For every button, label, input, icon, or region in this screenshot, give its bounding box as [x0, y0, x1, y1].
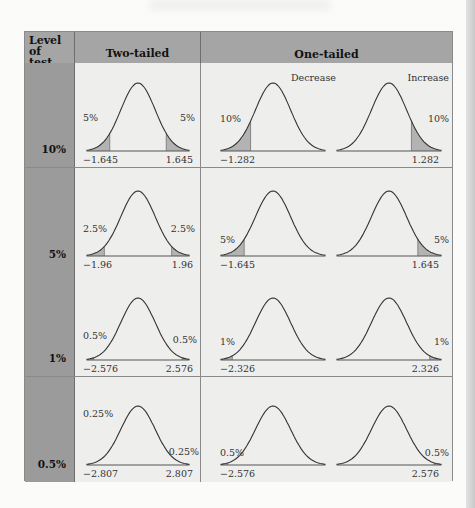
two-tailed-cell: 2.5%2.5%−1.961.96 — [75, 168, 201, 272]
level-cell: 1% — [25, 272, 75, 376]
right-tail-pct: 0.25% — [169, 446, 199, 457]
left-tail-pct: 0.5% — [220, 447, 244, 458]
header-level-of-test: Level of test — [25, 32, 75, 63]
two-tailed-curve: 0.25%0.25%−2.8072.807 — [75, 377, 201, 481]
level-cell: 10% — [25, 63, 75, 167]
neg-critical-value: −1.282 — [220, 154, 255, 165]
two-tailed-curve: 5%5%−1.6451.645 — [75, 63, 201, 167]
level-cell: 0.5% — [25, 377, 75, 482]
pos-critical-value: 2.326 — [412, 363, 439, 374]
one-tailed-curves: 0.5%0.5%−2.5762.576 — [201, 377, 452, 481]
one-tailed-cell: DecreaseIncrease10%10%−1.2821.282 — [201, 63, 452, 167]
one-tailed-curves: DecreaseIncrease10%10%−1.2821.282 — [201, 63, 452, 167]
level-cell: 5% — [25, 168, 75, 272]
pos-critical-value: 1.96 — [172, 259, 193, 270]
right-tail-pct: 0.5% — [173, 334, 197, 345]
one-tailed-cell: 5%5%−1.6451.645 — [201, 168, 452, 272]
two-tailed-curve: 0.5%0.5%−2.5762.576 — [75, 272, 201, 376]
pos-critical-value: 1.282 — [412, 154, 439, 165]
one-tailed-cell: 0.5%0.5%−2.5762.576 — [201, 377, 452, 482]
level-label: 0.5% — [38, 458, 66, 470]
two-tailed-cell: 0.5%0.5%−2.5762.576 — [75, 272, 201, 376]
neg-critical-value: −2.576 — [83, 363, 118, 374]
critical-values-table: Level of test Two-tailed One-tailed 10%5… — [24, 31, 453, 481]
left-tail-pct: 5% — [220, 234, 235, 245]
table-row: 5%2.5%2.5%−1.961.965%5%−1.6451.645 — [25, 168, 452, 273]
neg-critical-value: −1.96 — [83, 259, 112, 270]
bleed-through-text — [150, 0, 330, 10]
left-tail-pct: 5% — [83, 112, 98, 123]
neg-critical-value: −1.645 — [83, 154, 118, 165]
neg-critical-value: −1.645 — [220, 259, 255, 270]
level-label: 1% — [49, 352, 66, 364]
neg-critical-value: −2.807 — [83, 468, 118, 479]
one-tailed-curves: 1%1%−2.3262.326 — [201, 272, 452, 376]
page-edge — [466, 0, 475, 508]
pos-critical-value: 2.576 — [412, 468, 439, 479]
one-tailed-cell: 1%1%−2.3262.326 — [201, 272, 452, 376]
table-row: 10%5%5%−1.6451.645DecreaseIncrease10%10%… — [25, 63, 452, 168]
pos-critical-value: 1.645 — [412, 259, 439, 270]
header-one-tailed: One-tailed — [201, 32, 452, 63]
level-label: 10% — [41, 143, 66, 155]
pos-critical-value: 2.807 — [166, 468, 193, 479]
right-tail-pct: 10% — [428, 113, 449, 124]
neg-critical-value: −2.326 — [220, 363, 255, 374]
left-tail-pct: 0.5% — [83, 330, 107, 341]
neg-critical-value: −2.576 — [220, 468, 255, 479]
two-tailed-cell: 5%5%−1.6451.645 — [75, 63, 201, 167]
right-tail-pct: 1% — [434, 336, 449, 347]
two-tailed-curve: 2.5%2.5%−1.961.96 — [75, 168, 201, 272]
left-tail-pct: 1% — [220, 336, 235, 347]
increase-label: Increase — [407, 72, 449, 83]
left-tail-pct: 2.5% — [83, 223, 107, 234]
table-header: Level of test Two-tailed One-tailed — [25, 32, 452, 64]
table-row: 0.5%0.25%0.25%−2.8072.8070.5%0.5%−2.5762… — [25, 377, 452, 482]
left-tail-pct: 10% — [220, 113, 241, 124]
one-tailed-curves: 5%5%−1.6451.645 — [201, 168, 452, 272]
pos-critical-value: 1.645 — [166, 154, 193, 165]
right-tail-pct: 5% — [434, 234, 449, 245]
left-tail-pct: 0.25% — [83, 408, 113, 419]
two-tailed-cell: 0.25%0.25%−2.8072.807 — [75, 377, 201, 482]
pos-critical-value: 2.576 — [166, 363, 193, 374]
right-tail-pct: 2.5% — [171, 223, 195, 234]
level-label: 5% — [49, 248, 66, 260]
header-level-line1: Level of — [29, 35, 74, 57]
right-tail-pct: 5% — [180, 112, 195, 123]
table-row: 1%0.5%0.5%−2.5762.5761%1%−2.3262.326 — [25, 272, 452, 377]
header-two-tailed: Two-tailed — [75, 32, 201, 63]
decrease-label: Decrease — [291, 72, 336, 83]
right-tail-pct: 0.5% — [425, 447, 449, 458]
table-body: 10%5%5%−1.6451.645DecreaseIncrease10%10%… — [25, 63, 452, 481]
